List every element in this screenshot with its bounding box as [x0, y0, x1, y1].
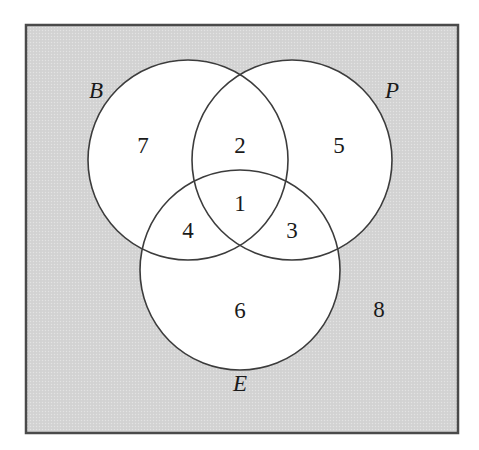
region-count-b-and-p: 2 — [234, 133, 246, 158]
region-count-p-and-e: 3 — [286, 218, 298, 243]
set-label-b: B — [89, 78, 103, 103]
region-count-b-and-e: 4 — [182, 218, 194, 243]
region-count-p-only: 5 — [333, 133, 345, 158]
region-count-outside: 8 — [373, 297, 385, 322]
set-label-e: E — [232, 371, 247, 396]
set-label-p: P — [384, 78, 399, 103]
venn-diagram-figure: B P E 7 2 5 4 1 3 6 8 — [0, 0, 479, 450]
region-count-b-and-p-and-e: 1 — [234, 191, 246, 216]
region-count-b-only: 7 — [137, 133, 149, 158]
venn-diagram-canvas: B P E 7 2 5 4 1 3 6 8 — [0, 0, 479, 450]
region-count-e-only: 6 — [234, 298, 246, 323]
